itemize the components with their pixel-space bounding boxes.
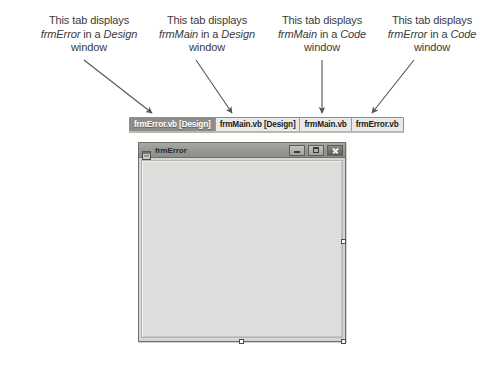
maximize-button[interactable]: [308, 145, 324, 156]
annotation-connector: in a: [427, 28, 450, 40]
annotation-connector: in a: [317, 28, 340, 40]
annotation-form-name: frmMain: [159, 28, 198, 40]
annotation-line-3: window: [140, 41, 274, 55]
annotation-form-name: frmMain: [278, 28, 317, 40]
form-designer-window[interactable]: frmError: [138, 142, 346, 342]
tab-frmmain-vb-design[interactable]: frmMain.vb [Design]: [216, 118, 301, 132]
form-title-bar[interactable]: frmError: [139, 143, 345, 158]
minimize-icon: [294, 151, 300, 153]
maximize-icon: [313, 147, 319, 153]
form-designer-icon: [142, 146, 151, 155]
arrow-to-tab-4: [372, 60, 414, 113]
close-button[interactable]: [327, 145, 343, 156]
annotation-frmmain-design: This tab displays frmMain in a Design wi…: [140, 14, 274, 55]
annotation-line-3: window: [258, 41, 386, 55]
minimize-button[interactable]: [289, 145, 305, 156]
annotation-window-kind: Design: [221, 28, 255, 40]
tab-frmerror-vb-design[interactable]: frmError.vb [Design]: [130, 118, 216, 132]
annotation-line-2: frmError in a Design: [22, 28, 156, 42]
resize-handle-bottom-center[interactable]: [239, 339, 244, 344]
annotation-line-1: This tab displays: [368, 14, 496, 28]
form-client-area[interactable]: [141, 160, 343, 338]
annotation-frmerror-code: This tab displays frmError in a Code win…: [368, 14, 496, 55]
annotation-line-3: window: [368, 41, 496, 55]
tab-strip-underline: [129, 131, 404, 133]
annotation-frmerror-design: This tab displays frmError in a Design w…: [22, 14, 156, 55]
annotation-line-1: This tab displays: [22, 14, 156, 28]
annotation-connector: in a: [80, 28, 103, 40]
tab-frmerror-vb-code[interactable]: frmError.vb: [352, 118, 403, 132]
annotation-window-kind: Code: [340, 28, 366, 40]
figure-root: This tab displays frmError in a Design w…: [0, 0, 497, 373]
annotation-line-3: window: [22, 41, 156, 55]
resize-handle-right-middle[interactable]: [341, 239, 346, 244]
annotation-form-name: frmError: [41, 28, 81, 40]
resize-handle-bottom-right[interactable]: [341, 339, 346, 344]
annotation-window-kind: Design: [104, 28, 138, 40]
annotation-line-2: frmError in a Code: [368, 28, 496, 42]
annotation-line-2: frmMain in a Design: [140, 28, 274, 42]
annotation-line-1: This tab displays: [258, 14, 386, 28]
form-title-text: frmError: [155, 146, 286, 155]
annotation-line-1: This tab displays: [140, 14, 274, 28]
annotation-window-kind: Code: [450, 28, 476, 40]
annotation-line-2: frmMain in a Code: [258, 28, 386, 42]
annotation-frmmain-code: This tab displays frmMain in a Code wind…: [258, 14, 386, 55]
annotation-connector: in a: [198, 28, 221, 40]
arrow-to-tab-1: [84, 60, 152, 113]
arrow-to-tab-2: [196, 60, 232, 113]
annotation-form-name: frmError: [388, 28, 428, 40]
tab-frmmain-vb-code[interactable]: frmMain.vb: [300, 118, 351, 132]
close-icon: [332, 147, 339, 154]
